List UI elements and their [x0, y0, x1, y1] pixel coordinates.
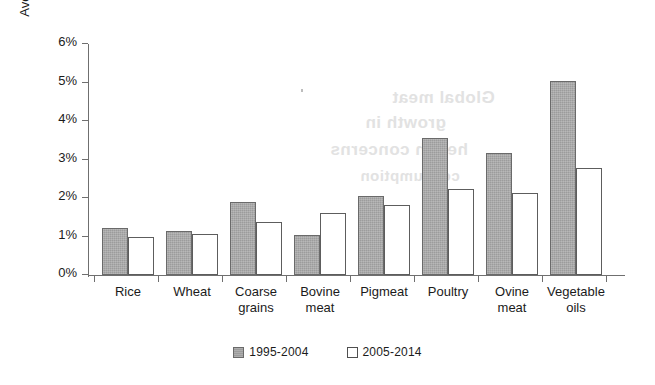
legend-item: 1995-2004 [233, 345, 308, 359]
bar [192, 234, 218, 275]
bar [294, 235, 320, 275]
y-axis-tick-label: 5% [58, 73, 77, 88]
y-axis-tick-label: 6% [58, 34, 77, 49]
y-axis-tick: 2% [82, 197, 88, 198]
bar [166, 231, 192, 275]
y-axis-title: Average annual growth [14, 0, 36, 66]
scan-speck [301, 89, 303, 92]
bar [320, 213, 346, 275]
x-axis-tick [286, 276, 287, 282]
y-axis-tick: 0% [82, 274, 88, 275]
bar [512, 193, 538, 275]
y-axis-tick-label: 4% [58, 111, 77, 126]
y-axis-tick-label: 0% [58, 265, 77, 280]
x-axis-tick [158, 276, 159, 282]
x-axis-tick [222, 276, 223, 282]
y-axis-tick-label: 1% [58, 227, 77, 242]
bar [128, 237, 154, 275]
x-axis-tick [414, 276, 415, 282]
legend-label: 1995-2004 [249, 345, 308, 359]
bar [422, 138, 448, 275]
y-axis-tick: 1% [82, 236, 88, 237]
x-axis-line [88, 275, 625, 276]
x-axis-tick [606, 276, 607, 282]
legend-swatch-icon [233, 347, 244, 358]
x-axis-tick [542, 276, 543, 282]
legend-item: 2005-2014 [347, 345, 422, 359]
plot-area: 0%1%2%3%4%5%6% RiceWheatCoarse grainsBov… [88, 44, 625, 276]
x-axis-category-label: Vegetable oils [531, 284, 621, 316]
bar [230, 202, 256, 275]
bar [384, 205, 410, 275]
legend-label: 2005-2014 [363, 345, 422, 359]
y-axis-tick-label: 2% [58, 188, 77, 203]
bar-chart: Average annual growth 0%1%2%3%4%5%6% Ric… [0, 0, 655, 385]
x-axis-tick [94, 276, 95, 282]
y-axis-tick-label: 3% [58, 150, 77, 165]
bar [550, 81, 576, 275]
bar [358, 196, 384, 275]
y-axis-tick: 3% [82, 159, 88, 160]
chart-legend: 1995-20042005-2014 [0, 345, 655, 359]
x-axis-tick [350, 276, 351, 282]
y-axis-line [88, 44, 89, 277]
y-axis-tick: 5% [82, 82, 88, 83]
legend-swatch-icon [347, 347, 358, 358]
y-axis-tick: 6% [82, 43, 88, 44]
x-axis-tick [478, 276, 479, 282]
bar [486, 153, 512, 275]
y-axis-tick: 4% [82, 120, 88, 121]
bar [256, 222, 282, 275]
bar [448, 189, 474, 275]
bar [576, 168, 602, 275]
bar [102, 228, 128, 275]
